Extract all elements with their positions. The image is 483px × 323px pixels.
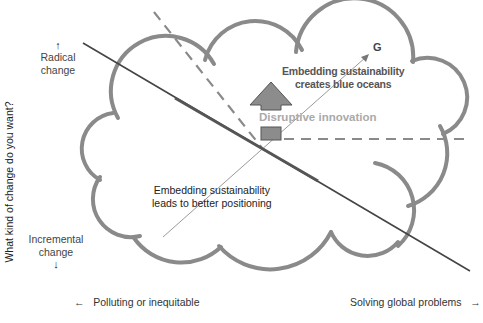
better-positioning-annotation: Embedding sustainability leads to better… bbox=[152, 184, 272, 210]
x-axis-right-label: Solving global problems → bbox=[350, 296, 481, 309]
y-axis-title: What kind of change do you want? bbox=[2, 112, 16, 252]
arrow-up-icon: ↑ bbox=[38, 40, 78, 51]
radical-line1: Radical bbox=[38, 51, 78, 64]
arrow-left-icon: ← bbox=[74, 296, 85, 308]
incremental-line1: Incremental bbox=[28, 233, 84, 246]
blue-oceans-line1: Embedding sustainability bbox=[282, 65, 404, 78]
y-axis-title-text: What kind of change do you want? bbox=[3, 101, 15, 262]
dashed-diagonal-line bbox=[154, 12, 262, 148]
positioning-line1: Embedding sustainability bbox=[152, 184, 272, 197]
solving-text: Solving global problems bbox=[350, 296, 461, 308]
incremental-change-label: Incremental change ↓ bbox=[28, 233, 84, 270]
positioning-line2: leads to better positioning bbox=[152, 197, 272, 210]
blue-oceans-line2: creates blue oceans bbox=[282, 78, 404, 91]
blue-oceans-annotation: Embedding sustainability creates blue oc… bbox=[282, 65, 404, 91]
arrow-down-icon: ↓ bbox=[28, 259, 84, 270]
goal-marker: G bbox=[373, 41, 382, 54]
polluting-text: Polluting or inequitable bbox=[93, 296, 199, 308]
radical-change-label: ↑ Radical change bbox=[38, 40, 78, 77]
x-axis-left-label: ← Polluting or inequitable bbox=[74, 296, 200, 309]
arrow-right-icon: → bbox=[470, 296, 481, 308]
radical-line2: change bbox=[38, 64, 78, 77]
disruptive-innovation-label: Disruptive innovation bbox=[259, 111, 377, 124]
